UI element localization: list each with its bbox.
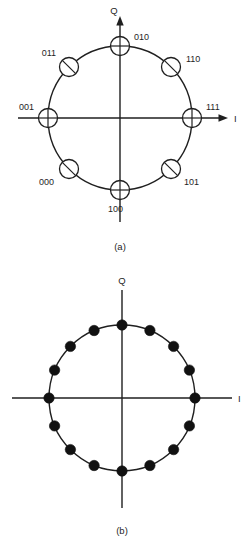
panel-a-label-100: 100 — [108, 204, 123, 214]
panel-a-symbol-011 — [60, 58, 79, 77]
panel-a-q-axis-arrowhead — [116, 16, 123, 26]
psk-constellation-figure: Q I 010 110 111 101 100 000 001 011 (a) — [0, 0, 249, 551]
panel-b-dot-0 — [117, 320, 127, 330]
panel-a-symbol-111 — [183, 109, 202, 128]
panel-a-label-001: 001 — [19, 102, 34, 112]
panel-a-8psk: Q I 010 110 111 101 100 000 001 011 (a) — [18, 5, 237, 252]
panel-b-dot-3 — [184, 365, 194, 375]
panel-b-dot-10 — [65, 444, 75, 454]
panel-a-symbol-110 — [162, 58, 181, 77]
panel-b-16psk: Q I (b) — [12, 275, 241, 536]
panel-b-dot-9 — [89, 460, 99, 470]
panel-b-dot-12 — [44, 393, 54, 403]
panel-a-symbol-000 — [60, 160, 79, 179]
panel-b-i-axis-label: I — [238, 393, 241, 404]
panel-b-dot-13 — [49, 365, 59, 375]
panel-b-dot-11 — [49, 421, 59, 431]
panel-a-i-axis-arrowhead — [219, 114, 229, 121]
panel-a-q-axis-label: Q — [110, 5, 117, 16]
panel-b-dot-1 — [145, 325, 155, 335]
panel-b-dot-6 — [168, 444, 178, 454]
panel-a-caption: (a) — [114, 241, 126, 252]
panel-b-dot-8 — [117, 466, 127, 476]
panel-b-caption: (b) — [116, 525, 128, 536]
panel-b-q-axis-label: Q — [118, 275, 125, 286]
panel-a-symbol-001 — [39, 109, 58, 128]
figure-root: Q I 010 110 111 101 100 000 001 011 (a) — [0, 0, 249, 551]
panel-a-label-010: 010 — [134, 32, 149, 42]
panel-b-dot-15 — [89, 325, 99, 335]
panel-a-symbol-100 — [111, 181, 130, 200]
panel-b-dot-14 — [65, 341, 75, 351]
panel-b-dot-5 — [184, 421, 194, 431]
panel-a-label-101: 101 — [184, 177, 199, 187]
panel-a-symbol-101 — [162, 160, 181, 179]
panel-a-label-110: 110 — [186, 54, 200, 64]
panel-b-dot-7 — [145, 460, 155, 470]
panel-b-dot-4 — [190, 393, 200, 403]
panel-a-symbol-010 — [111, 37, 130, 56]
panel-a-label-011: 011 — [42, 48, 56, 58]
panel-a-label-111: 111 — [206, 102, 220, 112]
panel-b-dot-2 — [168, 341, 178, 351]
panel-a-label-000: 000 — [39, 177, 54, 187]
panel-a-i-axis-label: I — [234, 113, 237, 124]
